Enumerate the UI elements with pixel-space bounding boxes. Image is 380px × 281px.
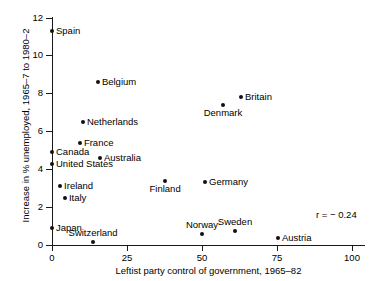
- data-point-label: Belgium: [102, 77, 136, 87]
- data-point-label: Sweden: [218, 217, 252, 227]
- x-axis-line: [52, 245, 365, 246]
- y-tick: [46, 18, 52, 19]
- data-point-label: Spain: [56, 26, 80, 36]
- data-point: [200, 232, 204, 236]
- data-point: [239, 95, 243, 99]
- data-point: [63, 196, 67, 200]
- data-point: [233, 229, 237, 233]
- data-point: [58, 184, 62, 188]
- data-point: [203, 180, 207, 184]
- data-point: [81, 120, 85, 124]
- x-tick: [202, 246, 203, 251]
- scatter-plot: 024681012 0255075100 Increase in % unemp…: [0, 0, 380, 281]
- data-point-label: Austria: [282, 233, 312, 243]
- correlation-annotation: r = − 0.24: [316, 209, 357, 220]
- data-point: [78, 141, 82, 145]
- x-tick: [52, 246, 53, 251]
- x-tick-label: 50: [182, 252, 222, 263]
- data-point-label: Netherlands: [87, 117, 138, 127]
- data-point: [50, 226, 54, 230]
- data-point: [96, 80, 100, 84]
- data-point-label: Finland: [150, 184, 181, 194]
- x-tick: [127, 246, 128, 251]
- y-tick: [46, 93, 52, 94]
- data-point-label: Norway: [186, 220, 218, 230]
- x-tick-label: 25: [107, 252, 147, 263]
- data-point: [50, 29, 54, 33]
- x-tick: [277, 246, 278, 251]
- data-point-label: Switzerland: [69, 228, 118, 238]
- y-tick: [46, 55, 52, 56]
- y-axis-line: [52, 17, 53, 246]
- data-point-label: Italy: [69, 193, 86, 203]
- x-axis-title: Leftist party control of government, 196…: [52, 265, 365, 276]
- data-point: [91, 240, 95, 244]
- data-point: [50, 150, 54, 154]
- data-point: [50, 162, 54, 166]
- y-axis-title: Increase in % unemployed, 1965–7 to 1980…: [20, 6, 31, 246]
- x-tick-label: 0: [32, 252, 72, 263]
- data-point-label: Canada: [56, 147, 89, 157]
- x-tick: [352, 246, 353, 251]
- data-point-label: Germany: [209, 177, 248, 187]
- data-point-label: Britain: [245, 92, 272, 102]
- data-point-label: Ireland: [64, 181, 93, 191]
- data-point-label: Denmark: [204, 108, 243, 118]
- data-point-label: United States: [56, 159, 113, 169]
- y-tick: [46, 131, 52, 132]
- x-tick-label: 100: [332, 252, 372, 263]
- x-tick-label: 75: [257, 252, 297, 263]
- y-tick: [46, 169, 52, 170]
- y-tick: [46, 207, 52, 208]
- data-point: [276, 236, 280, 240]
